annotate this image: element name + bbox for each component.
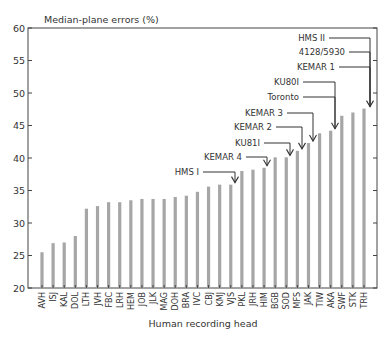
x-tick-label: JRH xyxy=(249,292,258,307)
bar-mag xyxy=(163,199,166,288)
x-tick-label: JOB xyxy=(138,292,147,307)
bar-isj xyxy=(52,243,55,288)
bar-job xyxy=(140,199,143,288)
bar-tiw xyxy=(318,133,321,288)
bar-mfs xyxy=(296,151,299,288)
bar-trh xyxy=(362,109,365,288)
bar-ivc xyxy=(196,192,199,288)
annotation-label: Toronto xyxy=(267,92,299,102)
annotation-label: KEMAR 1 xyxy=(297,62,335,72)
y-tick-label: 20 xyxy=(13,283,25,294)
bar-cbj xyxy=(207,187,210,288)
x-tick-label: BRA xyxy=(182,291,191,308)
bar-pkl xyxy=(240,171,243,288)
x-tick-label: MFS xyxy=(293,292,302,308)
annotation-label: KU80I xyxy=(274,77,299,87)
bar-hem xyxy=(129,200,132,288)
y-tick-label: 50 xyxy=(13,88,25,99)
x-tick-label: SWF xyxy=(338,292,347,310)
bar-swf xyxy=(340,116,343,288)
annotation-leader xyxy=(349,52,370,107)
x-tick-label: KAL xyxy=(60,291,69,307)
bar-him xyxy=(262,168,265,288)
bar-jvh xyxy=(96,206,99,288)
bar-lrh xyxy=(118,202,121,288)
bar-bgb xyxy=(274,157,277,288)
bar-jlk xyxy=(151,199,154,288)
x-tick-label: MAG xyxy=(160,292,169,310)
annotation-label: HMS II xyxy=(298,33,325,43)
annotation-leader xyxy=(303,82,335,129)
x-tick-label: DOL xyxy=(71,291,80,308)
y-axis-label: Median-plane errors (%) xyxy=(44,14,159,25)
x-tick-label: JAK xyxy=(304,291,313,306)
bar-lth xyxy=(85,209,88,288)
x-tick-label: LRH xyxy=(116,292,125,308)
annotation-label: KEMAR 2 xyxy=(234,122,272,132)
x-tick-label: CBJ xyxy=(205,292,214,305)
x-tick-label: KMJ xyxy=(216,292,225,307)
annotation-label: 4128/5930 xyxy=(299,47,345,57)
bar-jak xyxy=(307,143,310,288)
y-tick-label: 60 xyxy=(13,23,25,34)
bar-doh xyxy=(174,197,177,288)
x-tick-label: ISJ xyxy=(49,292,58,302)
x-tick-label: JLK xyxy=(149,291,158,305)
x-tick-label: TIW xyxy=(316,292,325,308)
annotation-label: KEMAR 3 xyxy=(245,108,283,118)
annotation-leader xyxy=(339,67,370,107)
x-tick-label: VJS xyxy=(227,292,236,305)
x-tick-label: HEM xyxy=(127,292,136,310)
annotation-leader xyxy=(276,127,302,149)
bar-chart: 202530354045505560 AVHISJKALDOLLTHJVHFBC… xyxy=(0,0,392,341)
bar-kal xyxy=(63,243,66,289)
x-tick-label: STK xyxy=(349,291,358,307)
bar-vjs xyxy=(229,185,232,288)
annotation-leader xyxy=(264,143,290,155)
x-tick-label: AKA xyxy=(327,291,336,308)
x-axis: AVHISJKALDOLLTHJVHFBCLRHHEMJOBJLKMAGDOHB… xyxy=(38,285,369,310)
bar-sod xyxy=(285,157,288,288)
bar-avh xyxy=(40,252,43,288)
annotation-label: KU81I xyxy=(235,138,260,148)
x-axis-label: Human recording head xyxy=(148,318,257,329)
y-tick-label: 40 xyxy=(13,153,25,164)
x-tick-label: FBC xyxy=(105,292,114,308)
y-tick-label: 45 xyxy=(13,120,25,131)
bar-jrh xyxy=(251,170,254,288)
y-tick-label: 25 xyxy=(13,250,25,261)
bar-fbc xyxy=(107,202,110,288)
x-tick-label: PKL xyxy=(238,291,247,306)
x-tick-label: LTH xyxy=(82,292,91,306)
x-tick-label: BGB xyxy=(271,292,280,309)
x-tick-label: TRH xyxy=(360,292,369,309)
x-tick-label: AVH xyxy=(38,292,47,308)
annotation-label: KEMAR 4 xyxy=(204,152,242,162)
x-tick-label: DOH xyxy=(171,292,180,310)
y-tick-label: 55 xyxy=(13,55,25,66)
bar-bra xyxy=(185,196,188,288)
bar-kmj xyxy=(218,185,221,288)
y-tick-label: 35 xyxy=(13,185,25,196)
annotation-leader xyxy=(203,172,235,183)
x-tick-label: IVC xyxy=(193,292,202,306)
bar-stk xyxy=(351,113,354,289)
annotation-label: HMS I xyxy=(175,167,199,177)
bar-dol xyxy=(74,236,77,288)
bar-aka xyxy=(329,131,332,288)
x-tick-label: SOD xyxy=(282,292,291,310)
y-tick-label: 30 xyxy=(13,218,25,229)
x-tick-label: HIM xyxy=(260,292,269,307)
x-tick-label: JVH xyxy=(94,292,103,307)
